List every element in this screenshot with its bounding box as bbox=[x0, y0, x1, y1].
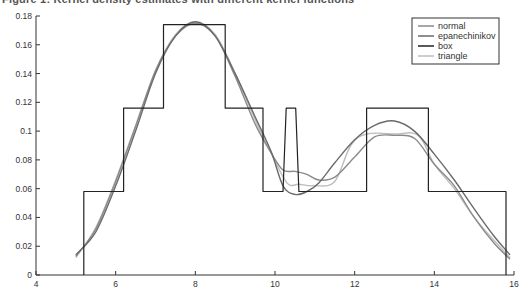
y-tick-label: 0.14 bbox=[15, 69, 32, 79]
legend-label: box bbox=[438, 41, 453, 51]
y-tick-label: 0.06 bbox=[15, 184, 32, 194]
y-tick-label: 0.12 bbox=[15, 97, 32, 107]
kde-chart: 4681012141600.020.040.060.080.10.120.140… bbox=[0, 0, 528, 302]
legend-label: normal bbox=[438, 21, 466, 31]
legend: normalepanechinikovboxtriangle bbox=[412, 18, 499, 64]
x-tick-label: 10 bbox=[270, 279, 280, 289]
y-tick-label: 0.16 bbox=[15, 40, 32, 50]
x-tick-label: 14 bbox=[430, 279, 440, 289]
x-tick-label: 6 bbox=[113, 279, 118, 289]
x-tick-label: 16 bbox=[509, 279, 519, 289]
y-tick-label: 0.08 bbox=[15, 155, 32, 165]
x-tick-label: 8 bbox=[193, 279, 198, 289]
y-tick-label: 0.1 bbox=[20, 126, 32, 136]
x-tick-label: 4 bbox=[34, 279, 39, 289]
y-tick-label: 0.02 bbox=[15, 241, 32, 251]
y-tick-label: 0 bbox=[27, 270, 32, 280]
legend-label: triangle bbox=[438, 51, 468, 61]
x-tick-label: 12 bbox=[350, 279, 360, 289]
y-tick-label: 0.18 bbox=[15, 11, 32, 21]
y-tick-label: 0.04 bbox=[15, 212, 32, 222]
legend-label: epanechinikov bbox=[438, 31, 496, 41]
